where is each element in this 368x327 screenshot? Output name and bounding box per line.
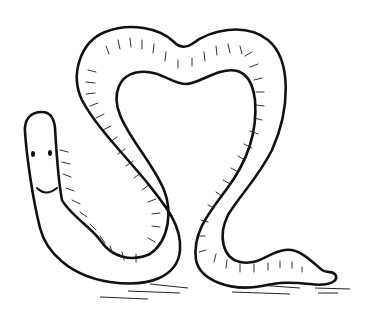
right-eye-icon: [48, 150, 52, 156]
worm-body: [25, 27, 336, 288]
left-eye-icon: [31, 151, 35, 157]
worm-illustration: [0, 0, 368, 327]
